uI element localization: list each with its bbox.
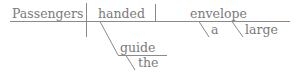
modifier-the-slant	[126, 56, 135, 71]
sentence-diagram: Passengers handed envelope a large guide…	[0, 0, 297, 76]
direct-object-word: envelope	[190, 6, 247, 21]
modifier-large-slant	[232, 22, 243, 38]
modifier-the-word: the	[138, 55, 158, 70]
modifier-a-slant	[199, 22, 209, 38]
indirect-object-word: guide	[120, 40, 155, 55]
verb-word: handed	[98, 6, 145, 21]
modifier-large-word: large	[245, 22, 278, 37]
indirect-object-slant	[100, 22, 118, 56]
subject-word: Passengers	[12, 6, 83, 21]
modifier-a-word: a	[211, 22, 219, 37]
